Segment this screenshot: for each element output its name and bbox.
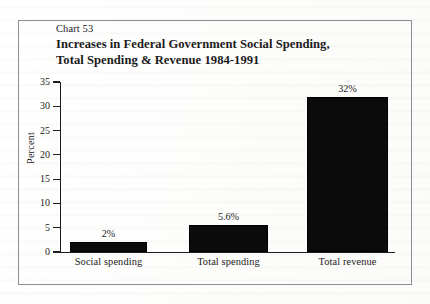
y-axis-tick-mark [53,154,60,155]
bar-value-label: 5.6% [189,211,268,222]
y-axis-tick-mark [53,251,60,252]
y-axis-tick-mark [53,130,60,131]
bar [189,225,268,252]
bar-value-label: 32% [307,83,388,94]
y-axis-tick-label: 30 [28,101,50,111]
x-axis-category-label: Total spending [164,256,293,268]
bar-value-label: 2% [70,228,147,239]
y-axis-tick-label: 10 [28,198,50,208]
y-axis-tick-mark [53,203,60,204]
y-axis-tick-mark [53,179,60,180]
bar [70,242,147,252]
y-axis-tick-mark [53,81,60,82]
plot-area: Percent 05101520253035 2%5.6%32% Social … [0,0,430,304]
y-axis-tick-mark [53,227,60,228]
y-axis-tick-label: 25 [28,126,50,136]
y-axis-tick-label: 20 [28,150,50,160]
y-axis-tick-label: 35 [28,77,50,87]
y-axis-title: Percent [26,113,36,183]
x-axis-category-label: Total revenue [282,256,413,268]
y-axis-tick-mark [53,106,60,107]
y-axis-tick-label: 5 [28,223,50,233]
y-axis-line [60,82,61,253]
x-axis-category-label: Social spending [45,256,172,268]
bar [307,97,388,252]
y-axis-tick-label: 15 [28,174,50,184]
